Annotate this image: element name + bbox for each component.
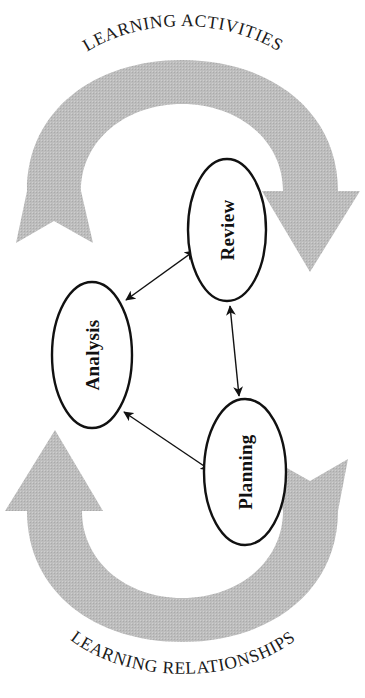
node-planning-label: Planning [235,434,256,509]
lower-band-arrow-shape [5,430,348,642]
connector-analysis-planning [124,412,210,470]
node-analysis[interactable]: Analysis [52,282,132,428]
top-cycle-label: LEARNING ACTIVITIES [79,10,287,55]
node-analysis-label: Analysis [82,319,103,390]
top-cycle-label-text: LEARNING ACTIVITIES [79,10,287,55]
node-review-label: Review [217,200,238,261]
lower-band-arrow [5,430,348,642]
diagram-canvas: Review Analysis Planning LEARNING ACTIVI… [0,0,365,698]
connector-review-planning [230,306,239,396]
connector-analysis-review [126,251,194,300]
node-review[interactable]: Review [188,159,266,301]
node-planning[interactable]: Planning [204,399,286,545]
learning-cycle-diagram: Review Analysis Planning LEARNING ACTIVI… [0,0,365,698]
